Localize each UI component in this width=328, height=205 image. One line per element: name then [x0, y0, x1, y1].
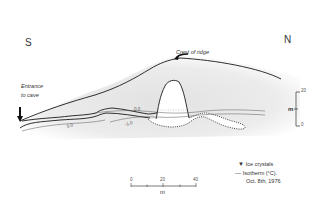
horizontal-scale-tick-40: 40 — [193, 178, 198, 183]
cave-cross-section-diagram — [0, 0, 328, 205]
horizontal-scale-unit: m — [160, 189, 165, 195]
vertical-scale-top: 20 — [301, 89, 306, 94]
compass-south-label: S — [25, 38, 32, 48]
legend-isotherm: — Isotherm (°C). — [235, 169, 277, 176]
vertical-scale-unit: m — [288, 106, 293, 112]
isotherm-line-icon: — — [235, 170, 241, 176]
legend-ice-label: Ice crystals — [246, 161, 274, 167]
legend-date: Oct. 8th, 1976 — [246, 178, 281, 184]
rock-mass-shading — [20, 56, 300, 140]
legend-ice-crystals: ▼ Ice crystals — [238, 160, 273, 167]
entrance-label-line2: to cave — [21, 93, 39, 99]
vertical-scale-bottom: 0 — [301, 123, 304, 128]
horizontal-scale-tick-0: 0 — [130, 178, 133, 183]
horizontal-scale-bar — [131, 183, 196, 187]
horizontal-scale-tick-20: 20 — [160, 178, 165, 183]
ice-crystal-icon: ▼ — [238, 161, 244, 167]
legend-isotherm-label: Isotherm (°C). — [243, 170, 277, 176]
entrance-label-line1: Entrance — [21, 84, 43, 90]
compass-north-label: N — [284, 35, 291, 45]
isotherm-label-0: 0.0 — [134, 108, 140, 113]
crest-of-ridge-label: Crest of ridge — [176, 50, 209, 56]
